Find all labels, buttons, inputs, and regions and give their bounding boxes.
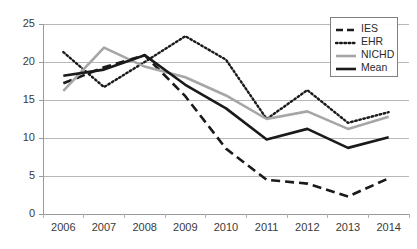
x-tick-label: 2006: [43, 221, 84, 233]
chart-legend: IESEHRNICHDMean: [330, 17, 398, 77]
x-tick-label: 2010: [206, 221, 247, 233]
y-tick-label: 0: [0, 207, 35, 219]
legend-item-ies: IES: [335, 21, 392, 34]
y-tick-label: 5: [0, 169, 35, 181]
legend-label: Mean: [361, 61, 387, 73]
x-tick-label: 2011: [246, 221, 287, 233]
axis-lines: [39, 24, 43, 214]
gray-solid-line-swatch: [335, 48, 357, 60]
x-tick-label: 2014: [368, 221, 409, 233]
x-tick-label: 2009: [165, 221, 206, 233]
y-tick-label: 25: [0, 17, 35, 29]
black-solid-line-swatch: [335, 61, 357, 73]
legend-label: IES: [361, 22, 378, 34]
dashed-line-swatch: [335, 22, 357, 34]
x-tick-label: 2007: [84, 221, 125, 233]
line-chart: 0510152025 20062007200820092010201120122…: [0, 0, 417, 249]
y-tick-label: 15: [0, 93, 35, 105]
x-tick-label: 2012: [287, 221, 328, 233]
legend-label: NICHD: [361, 48, 394, 60]
legend-item-ehr: EHR: [335, 34, 392, 47]
x-tick-label: 2008: [124, 221, 165, 233]
x-tick-marks: [43, 214, 409, 218]
y-tick-label: 20: [0, 55, 35, 67]
y-tick-label: 10: [0, 131, 35, 143]
legend-item-nichd: NICHD: [335, 47, 392, 60]
dotted-line-swatch: [335, 35, 357, 47]
legend-label: EHR: [361, 35, 383, 47]
x-tick-label: 2013: [328, 221, 369, 233]
legend-item-mean: Mean: [335, 60, 392, 73]
